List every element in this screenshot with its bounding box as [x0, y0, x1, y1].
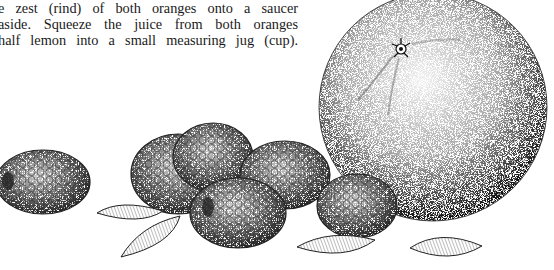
almond-2 [121, 216, 180, 257]
raspberry-5 [190, 178, 286, 248]
almond-3 [297, 235, 375, 253]
raspberry-1 [0, 150, 90, 214]
raspberry-6 [317, 174, 397, 238]
fruit-illustration [0, 0, 554, 270]
almond-4 [410, 237, 482, 256]
